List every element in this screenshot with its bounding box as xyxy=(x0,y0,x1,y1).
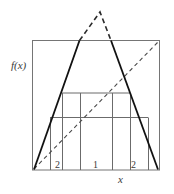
y-axis-label: f(x) xyxy=(11,59,27,72)
triangle-left-side xyxy=(34,41,80,170)
triangle-apex-dashed xyxy=(80,12,112,41)
bin-label-center: 1 xyxy=(93,159,98,170)
triangular-distribution-figure: f(x) x 2 1 2 xyxy=(0,0,174,194)
triangle-right-side xyxy=(111,41,158,170)
bin-label-right: 2 xyxy=(131,159,136,170)
cdf-diagonal-dashed-line xyxy=(34,42,158,169)
figure-container: f(x) x 2 1 2 xyxy=(0,0,174,194)
bin-label-left: 2 xyxy=(55,159,60,170)
x-axis-label: x xyxy=(117,173,123,185)
